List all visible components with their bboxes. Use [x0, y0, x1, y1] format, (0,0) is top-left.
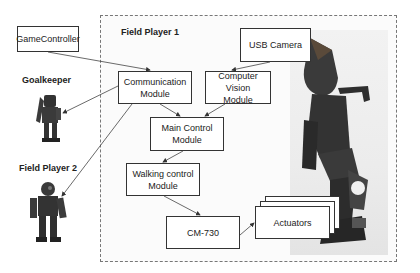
main-control-label-line1: Main Control — [161, 122, 212, 134]
field-player-2-label: Field Player 2 — [19, 163, 77, 173]
walking-control-module-node: Walking control Module — [126, 163, 200, 196]
communication-label-line1: Communication — [124, 76, 187, 88]
walking-label-line1: Walking control — [132, 168, 193, 180]
frame-title: Field Player 1 — [121, 27, 179, 37]
game-controller-label: GameController — [16, 33, 80, 45]
actuators-node: Actuators — [255, 206, 330, 239]
usb-camera-label: USB Camera — [249, 39, 302, 51]
system-architecture-diagram: Field Player 1 GameController Goalkeeper… — [0, 0, 420, 273]
main-control-label-line2: Module — [172, 134, 202, 146]
usb-camera-node: USB Camera — [240, 28, 311, 62]
communication-module-node: Communication Module — [118, 71, 192, 104]
vision-label-line1: Computer Vision — [206, 70, 270, 94]
goalkeeper-robot-icon — [30, 93, 65, 145]
goalkeeper-label: Goalkeeper — [22, 75, 71, 85]
computer-vision-module-node: Computer Vision Module — [205, 71, 271, 104]
main-control-module-node: Main Control Module — [150, 117, 224, 151]
vision-label-line2: Module — [223, 94, 253, 106]
game-controller-node: GameController — [17, 26, 79, 52]
field-player-2-robot-icon — [26, 180, 68, 246]
communication-label-line2: Module — [140, 88, 170, 100]
walking-label-line2: Module — [148, 180, 178, 192]
cm730-node: CM-730 — [166, 216, 240, 249]
actuators-label: Actuators — [273, 217, 311, 229]
cm730-label: CM-730 — [187, 227, 219, 239]
